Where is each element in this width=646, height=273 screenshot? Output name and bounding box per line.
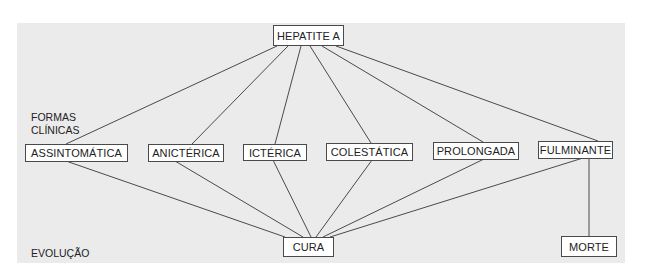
node-morte: MORTE bbox=[561, 236, 617, 257]
label-evolucao: EVOLUÇÃO bbox=[31, 247, 89, 260]
node-assintomatica: ASSINTOMÁTICA bbox=[25, 144, 128, 162]
edge-fulminante-cura bbox=[330, 158, 583, 237]
label-formas-clinicas: FORMAS CLÍNICAS bbox=[31, 111, 79, 137]
edge-prolongada-cura bbox=[323, 159, 484, 237]
node-anicterica: ANICTÉRICA bbox=[148, 144, 224, 162]
node-colestatica: COLESTÁTICA bbox=[326, 143, 413, 161]
node-prolongada: PROLONGADA bbox=[433, 142, 519, 160]
label-formas: FORMAS bbox=[31, 111, 79, 124]
edge-icterica-cura bbox=[273, 160, 311, 237]
node-cura: CURA bbox=[283, 237, 334, 257]
label-clinicas: CLÍNICAS bbox=[31, 124, 79, 137]
edge-assintomatica-cura bbox=[66, 161, 285, 237]
node-fulminante: FULMINANTE bbox=[538, 141, 613, 159]
node-icterica: ICTÉRICA bbox=[243, 144, 307, 161]
edge-colestatica-cura bbox=[316, 160, 372, 237]
edge-hepatite-colestatica bbox=[310, 46, 371, 143]
edge-hepatite-prolongada bbox=[322, 46, 483, 142]
edge-hepatite-icterica bbox=[275, 46, 301, 144]
edge-anicterica-cura bbox=[175, 161, 303, 237]
edge-hepatite-anicterica bbox=[192, 46, 288, 144]
edge-hepatite-fulminante bbox=[336, 46, 598, 141]
node-hepatite-a: HEPATITE A bbox=[273, 25, 344, 46]
edge-hepatite-assintomatica bbox=[66, 46, 277, 144]
